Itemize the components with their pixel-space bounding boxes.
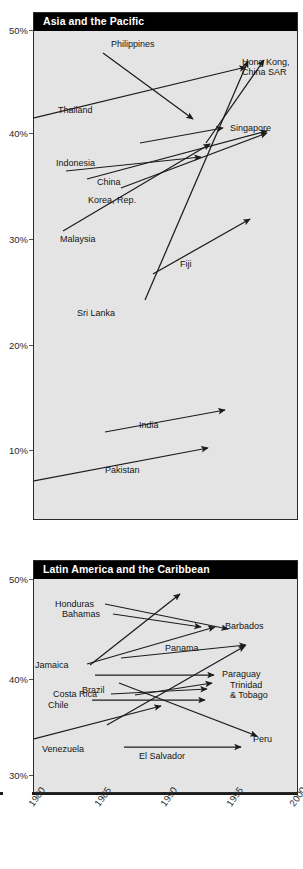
y-tick-mark-lac-30 [29,775,33,776]
series-label-trinidad-line2: & Tobago [230,690,268,701]
series-line-venezuela [34,706,161,739]
y-tick-mark-lac-40 [29,679,33,680]
y-tick-mark-lac-50 [29,579,33,580]
panel-latin-america-caribbean: Latin America and the Caribbean [33,560,298,793]
series-label-honduras: Honduras [55,599,94,610]
y-tick-mark-asia-30 [29,239,33,240]
y-tick-label-asia-20: 20% [0,340,28,351]
y-tick-mark-asia-20 [29,345,33,346]
series-label-el-salvador: El Salvador [139,751,185,762]
y-tick-label-lac-40: 40% [0,674,28,685]
series-label-paraguay: Paraguay [222,669,261,680]
series-label-jamaica: Jamaica [35,660,69,671]
series-label-korea: Korea, Rep. [88,195,136,206]
y-tick-label-asia-40: 40% [0,128,28,139]
series-label-venezuela: Venezuela [42,744,84,755]
series-label-barbados: Barbados [225,621,264,632]
series-line-china [87,131,267,179]
y-tick-label-lac-50: 50% [0,574,28,585]
x-tick-label-1980: 1980 [26,785,47,809]
series-label-pakistan: Pakistan [105,465,140,476]
series-label-trinidad-line1: Trinidad [230,680,262,691]
series-line-india [105,410,225,432]
panel-header-lac: Latin America and the Caribbean [34,561,297,579]
series-label-hong-kong-line1: Hong Kong, [242,57,290,68]
panel-asia-and-pacific: Asia and the Pacific [33,12,298,520]
panel-header-asia-label: Asia and the Pacific [43,15,144,27]
y-tick-mark-asia-40 [29,133,33,134]
y-tick-label-asia-50: 50% [0,25,28,36]
series-line-honduras [105,604,228,629]
y-tick-mark-asia-50 [29,30,33,31]
series-label-singapore: Singapore [230,123,271,134]
panel-header-asia: Asia and the Pacific [34,13,297,31]
series-label-india: India [139,420,159,431]
series-label-sri-lanka: Sri Lanka [77,308,115,319]
series-label-malaysia: Malaysia [60,234,96,245]
chart-figure: Asia and the Pacific [0,0,303,869]
x-tick-mark-2000 [0,792,3,795]
series-label-fiji: Fiji [180,259,192,270]
series-line-costa-rica [111,689,207,694]
series-label-peru: Peru [253,734,272,745]
series-label-chile: Chile [48,700,69,711]
series-label-thailand: Thailand [58,105,93,116]
panel-header-lac-label: Latin America and the Caribbean [43,563,210,575]
series-label-indonesia: Indonesia [56,158,95,169]
y-tick-label-lac-30: 30% [0,770,28,781]
series-label-bahamas: Bahamas [62,609,100,620]
series-label-panama: Panama [165,643,199,654]
y-tick-mark-asia-10 [29,450,33,451]
series-line-sri-lanka [145,61,248,300]
y-tick-label-asia-10: 10% [0,445,28,456]
series-line-philippines [103,53,193,119]
series-label-philippines: Philippines [111,39,155,50]
series-label-hong-kong-line2: China SAR [242,67,287,78]
series-label-brazil: Brazil [82,685,105,696]
plot-area-asia: Philippines Thailand Hong Kong, China SA… [34,31,297,519]
plot-area-lac: Honduras Bahamas Barbados Jamaica Panama… [34,579,297,792]
series-line-korea [121,133,267,188]
y-tick-label-asia-30: 30% [0,234,28,245]
series-label-china: China [97,177,121,188]
series-line-jamaica [90,594,180,665]
